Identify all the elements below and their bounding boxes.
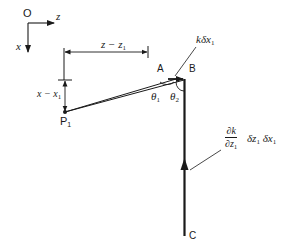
theta2-label: θ2 [170,91,179,104]
point-c-label: C [189,231,196,241]
point-b-label: B [189,64,196,74]
angle-arc-theta2 [176,82,184,91]
dimension-x-label: x − x1 [37,89,61,101]
x-axis-label: x [16,41,21,52]
leader-side [190,150,221,170]
axes-icon [28,23,54,52]
fraction-denominator: ∂z1 [225,138,237,151]
point-p1-label: P1 [60,116,71,128]
angle-arc-theta1 [160,82,174,85]
point-p1 [63,110,67,114]
dimension-z-label: z − z1 [101,39,126,52]
fraction-numerator: ∂k [225,126,237,138]
theta1-label: θ1 [151,91,160,104]
origin-label: O [23,8,32,19]
point-a-label: A [157,64,164,74]
k-delta-x1-label: kδx1 [196,34,214,47]
partial-k-fraction: ∂k ∂z1 [225,126,237,151]
ray-diagram [0,0,302,251]
arrow-up-icon [181,158,189,170]
z-axis-label: z [56,11,60,22]
delta-z1-delta-x1-label: δz1 δx1 [247,133,276,146]
